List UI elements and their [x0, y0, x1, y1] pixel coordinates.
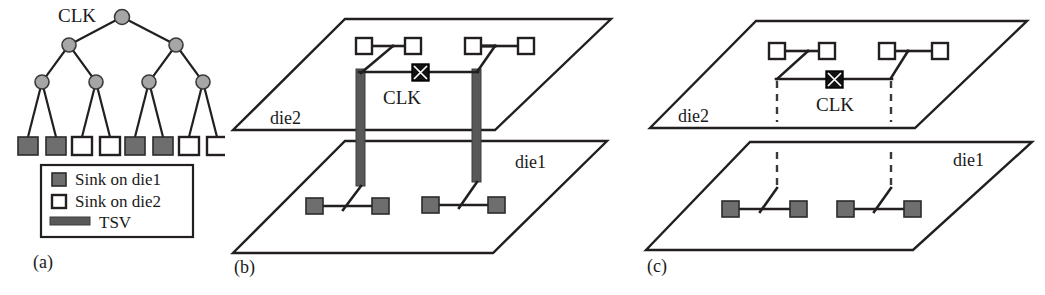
sink-die1: [722, 201, 739, 217]
tsv-bar: [356, 69, 365, 186]
clk-label-c: CLK: [816, 94, 854, 115]
sink-die2: [769, 43, 785, 59]
sink-die2: [819, 43, 835, 59]
clk-label-a: CLK: [58, 5, 96, 26]
tree-node: [89, 75, 103, 89]
sink-die2: [879, 43, 895, 59]
sink-die1: [372, 198, 389, 214]
die1-label-b: die1: [515, 152, 546, 172]
tree-node-root: [115, 10, 130, 25]
legend-label-sink-die1: Sink on die1: [75, 170, 161, 189]
clock-net-die2-c: [776, 51, 935, 79]
clock-net-die2-b: [359, 46, 521, 73]
legend-marker-filled-square: [52, 173, 66, 186]
die2-label-b: die2: [270, 108, 301, 128]
sink-die1: [837, 201, 854, 217]
tsv-bar: [472, 69, 481, 182]
panel-a: CLK Sink on die1 Sink on die2 TSV (a): [0, 0, 225, 295]
sink-die1: [46, 137, 66, 155]
sink-die2: [72, 137, 92, 155]
panel-label-b: (b): [234, 257, 255, 278]
die2-label-c: die2: [678, 106, 709, 126]
sink-die2: [100, 137, 120, 155]
legend-marker-tsv-bar: [50, 217, 90, 225]
sink-die2: [932, 43, 948, 59]
sink-die1: [422, 197, 439, 213]
clock-net-die1-c: [736, 188, 909, 212]
tree-node: [35, 75, 49, 89]
panel-c: CLK die2 die1 (c): [610, 0, 1045, 295]
sink-die2: [356, 38, 372, 54]
figure-root: CLK Sink on die1 Sink on die2 TSV (a): [0, 0, 1045, 295]
die1-plane-b: [233, 141, 607, 253]
sink-die1: [18, 137, 38, 155]
clock-net-die1-b: [319, 182, 493, 210]
legend-label-sink-die2: Sink on die2: [75, 192, 161, 211]
clk-label-b: CLK: [383, 87, 421, 108]
legend-label-tsv: TSV: [99, 213, 132, 232]
panel-label-c: (c): [647, 256, 667, 277]
panel-b: CLK die2 die1 (b): [225, 0, 615, 295]
tree-node: [196, 75, 210, 89]
tree-edges: [28, 17, 217, 137]
die1-label-c: die1: [953, 150, 984, 170]
panel-label-a: (a): [33, 252, 53, 273]
sink-die1: [488, 197, 505, 213]
sink-die2: [518, 38, 534, 54]
sink-die1: [153, 137, 173, 155]
tree-node: [142, 75, 156, 89]
clk-source-b: [412, 64, 429, 81]
sink-die2: [405, 38, 421, 54]
sink-die2: [179, 137, 199, 155]
sink-die2: [465, 38, 481, 54]
tree-leaf-group: [18, 137, 225, 155]
legend-a: Sink on die1 Sink on die2 TSV: [41, 165, 193, 237]
clk-source-c: [826, 71, 843, 88]
tree-node: [62, 38, 76, 52]
via-group-die1-c: [777, 152, 891, 188]
tree-node: [169, 38, 183, 52]
sink-die1: [790, 201, 807, 217]
sink-die1: [904, 201, 921, 217]
legend-marker-open-square: [52, 195, 66, 208]
sink-die1: [306, 198, 323, 214]
sink-die2: [207, 137, 225, 155]
sink-die1: [125, 137, 145, 155]
